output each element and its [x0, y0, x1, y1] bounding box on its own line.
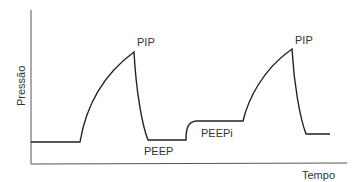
x-axis-label: Tempo [302, 169, 335, 181]
pip-label-1: PIP [137, 36, 155, 48]
peep-label: PEEP [144, 145, 173, 157]
pip-label-2: PIP [295, 34, 313, 46]
pressure-time-diagram: Pressão Tempo PIP PEEP PEEPi PIP [0, 0, 358, 182]
peepi-label: PEEPi [201, 127, 233, 139]
x-axis [31, 163, 347, 164]
pressure-waveform [31, 49, 330, 142]
y-axis-label: Pressão [15, 66, 27, 106]
